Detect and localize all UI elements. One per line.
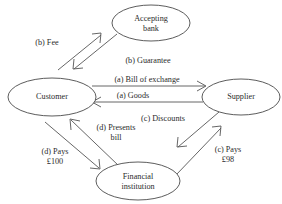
edge-guarantee-arrowhead: [73, 59, 83, 69]
edge-label-pays-98-line1: (c) Pays: [215, 145, 242, 154]
edge-pays-98-arrowhead: [212, 126, 221, 136]
edge-label-discounts: (c) Discounts: [141, 114, 185, 123]
node-financial-institution-label-line2: institution: [121, 182, 154, 191]
node-customer-label-line1: Customer: [36, 92, 68, 101]
node-supplier[interactable]: Supplier: [202, 79, 280, 115]
node-accepting-bank[interactable]: Accepting bank: [112, 5, 190, 41]
edge-label-fee: (b) Fee: [35, 38, 59, 47]
edge-guarantee: [73, 34, 117, 69]
transaction-flow-diagram: Accepting bank Customer Supplier Financi…: [0, 0, 282, 204]
edge-label-bill-of-exchange: (a) Bill of exchange: [114, 75, 180, 84]
node-accepting-bank-label-line2: bank: [143, 24, 160, 33]
edge-label-goods: (a) Goods: [117, 91, 150, 100]
edge-label-pays-98-line2: £98: [222, 155, 234, 164]
node-supplier-label-line1: Supplier: [227, 92, 255, 101]
node-financial-institution-label-line1: Financial: [123, 172, 154, 181]
edge-label-pays-100-line1: (d) Pays: [41, 147, 68, 156]
edge-label-presents-bill-line2: bill: [111, 133, 123, 142]
edge-label-pays-100-line2: £100: [47, 157, 63, 166]
edge-discounts-arrowhead: [177, 137, 187, 147]
edge-label-presents-bill-line1: (d) Presents: [97, 123, 136, 132]
edge-label-guarantee: (b) Guarantee: [125, 56, 171, 65]
diagram-canvas: Accepting bank Customer Supplier Financi…: [0, 0, 282, 204]
node-financial-institution[interactable]: Financial institution: [96, 162, 180, 200]
node-accepting-bank-label-line1: Accepting: [134, 14, 168, 23]
node-customer[interactable]: Customer: [8, 78, 96, 116]
